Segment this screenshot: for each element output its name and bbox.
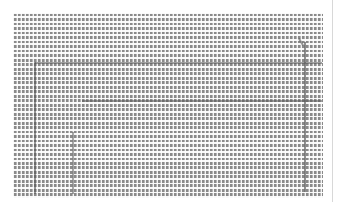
horizontal-line-middle	[82, 100, 322, 102]
vertical-line-inner	[72, 132, 74, 194]
fabric-texture	[13, 13, 323, 198]
right-edge-rule	[332, 0, 333, 202]
vertical-line-left	[34, 62, 36, 194]
horizontal-line-top	[35, 62, 322, 64]
vertical-line-right	[304, 42, 306, 192]
